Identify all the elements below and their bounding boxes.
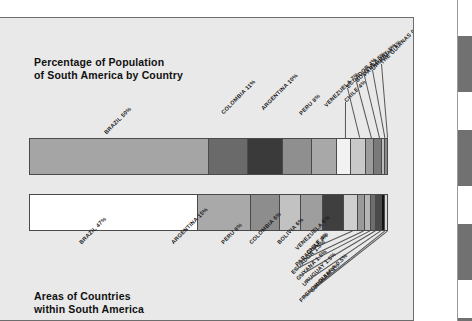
- population-label-the-guianas: THE GUIANAS 0.5%: [379, 21, 414, 65]
- area-segment-paraguay: [358, 195, 365, 230]
- population-chart-title: Percentage of Population of South Americ…: [34, 56, 183, 81]
- edge-tab-block: [458, 130, 472, 186]
- edge-tab-block: [458, 224, 472, 280]
- page-edge-tab-strip: [448, 0, 472, 321]
- page-top-margin: [0, 0, 472, 17]
- population-label-argentina: ARGENTINA 10%: [260, 72, 299, 111]
- area-chart-title-line1: Areas of Countries: [34, 290, 144, 303]
- population-chart-title-line1: Percentage of Population: [34, 56, 183, 69]
- area-segment-chile: [344, 195, 358, 230]
- population-label-colombia: COLOMBIA 11%: [220, 79, 257, 116]
- population-segment-ecuador: [351, 139, 365, 174]
- population-segment-peru: [283, 139, 312, 174]
- population-segment-venezuela: [312, 139, 337, 174]
- population-label-peru: PERU 8%: [298, 93, 321, 116]
- population-label-brazil: BRAZIL 50%: [103, 106, 132, 135]
- population-segment-brazil: [30, 139, 209, 174]
- area-segment-french-guiana: [385, 195, 387, 230]
- population-leader-line: [364, 76, 380, 138]
- area-segment-brazil: [30, 195, 198, 230]
- area-stacked-bar: [29, 194, 388, 231]
- chart-page: l Percentage of Population of South Amer…: [0, 17, 414, 321]
- area-chart-title: Areas of Countries within South America: [34, 290, 144, 315]
- population-segment-chile: [337, 139, 351, 174]
- area-chart-title-line2: within South America: [34, 303, 144, 316]
- population-stacked-bar: [29, 138, 388, 175]
- population-segment-the-guianas: [385, 139, 387, 174]
- edge-tab-block: [458, 36, 472, 92]
- population-leader-line: [345, 102, 346, 138]
- population-chart-title-line2: of South America by Country: [34, 69, 183, 82]
- population-segment-argentina: [248, 139, 284, 174]
- area-segment-venezuela: [323, 195, 344, 230]
- population-segment-bolivia: [366, 139, 375, 174]
- population-segment-paraguay: [374, 139, 381, 174]
- population-segment-colombia: [209, 139, 248, 174]
